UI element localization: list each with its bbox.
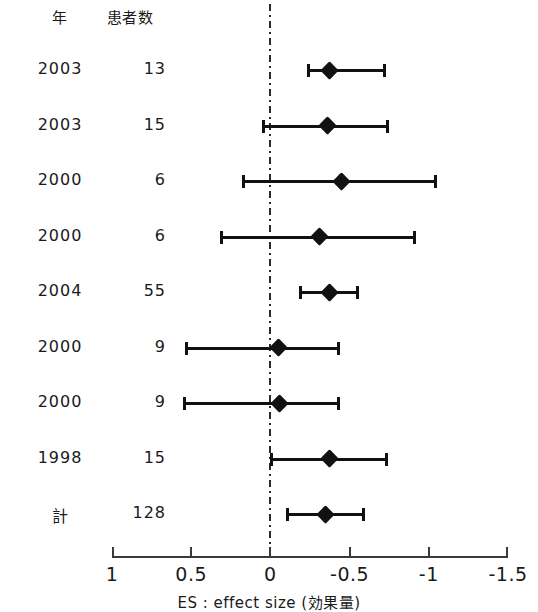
x-axis-tick — [506, 547, 508, 556]
patient-count-label: 6 — [104, 226, 166, 245]
plot-canvas — [0, 0, 538, 560]
summary-effect-marker — [317, 505, 335, 523]
patient-count-label: 13 — [104, 59, 166, 78]
effect-size-marker — [320, 61, 338, 79]
confidence-interval-cap — [362, 508, 365, 521]
confidence-interval-cap — [242, 175, 245, 188]
x-axis-tick — [112, 547, 114, 556]
confidence-interval-cap — [220, 231, 223, 244]
effect-size-marker — [320, 283, 338, 301]
x-axis-tick-label: -1 — [419, 563, 439, 585]
confidence-interval-cap — [337, 342, 340, 355]
confidence-interval-cap — [383, 64, 386, 77]
patient-count-label: 9 — [104, 392, 166, 411]
effect-size-marker — [269, 338, 287, 356]
axis-caption: ES : effect size (効果量) — [0, 591, 538, 612]
confidence-interval-cap — [386, 120, 389, 133]
confidence-interval-cap — [270, 453, 273, 466]
x-axis-tick-label: 1 — [106, 563, 119, 585]
effect-size-marker — [310, 227, 328, 245]
study-year-label: 2000 — [14, 392, 106, 411]
effect-size-marker — [318, 116, 336, 134]
confidence-interval-cap — [307, 64, 310, 77]
study-year-label: 2000 — [14, 170, 106, 189]
x-axis-tick — [428, 547, 430, 556]
study-year-label: 2000 — [14, 226, 106, 245]
confidence-interval-cap — [183, 397, 186, 410]
patient-count-label: 55 — [104, 281, 166, 300]
x-axis-tick-label: 0 — [264, 563, 277, 585]
patient-count-label: 15 — [104, 115, 166, 134]
study-year-label: 2003 — [14, 59, 106, 78]
x-axis-tick-label: 0.5 — [175, 563, 207, 585]
confidence-interval-cap — [385, 453, 388, 466]
patient-count-label: 15 — [104, 448, 166, 467]
effect-size-marker — [320, 449, 338, 467]
confidence-interval-line — [307, 69, 386, 72]
patient-count-label: 128 — [104, 503, 166, 522]
zero-reference-line — [269, 4, 271, 557]
x-axis-tick — [190, 547, 192, 556]
confidence-interval-cap — [262, 120, 265, 133]
confidence-interval-line — [183, 402, 340, 405]
confidence-interval-cap — [413, 231, 416, 244]
x-axis-tick — [349, 547, 351, 556]
study-year-label: 計 — [14, 503, 106, 527]
patient-count-label: 9 — [104, 337, 166, 356]
confidence-interval-line — [185, 347, 340, 350]
x-axis-tick-label: -1.5 — [488, 563, 527, 585]
confidence-interval-cap — [434, 175, 437, 188]
confidence-interval-cap — [299, 286, 302, 299]
x-axis-line — [112, 556, 508, 558]
x-axis-tick-label: -0.5 — [330, 563, 369, 585]
patient-count-label: 6 — [104, 170, 166, 189]
study-year-label: 2003 — [14, 115, 106, 134]
study-year-label: 2000 — [14, 337, 106, 356]
x-axis-tick — [269, 547, 271, 556]
study-year-label: 2004 — [14, 281, 106, 300]
effect-size-marker — [332, 172, 350, 190]
effect-size-marker — [271, 394, 289, 412]
confidence-interval-cap — [286, 508, 289, 521]
confidence-interval-cap — [185, 342, 188, 355]
confidence-interval-cap — [337, 397, 340, 410]
confidence-interval-cap — [356, 286, 359, 299]
study-year-label: 1998 — [14, 448, 106, 467]
